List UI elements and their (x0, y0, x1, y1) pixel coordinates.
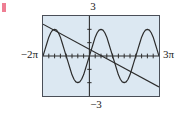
y-max-label: 3 (90, 1, 96, 12)
y-min-label: −3 (90, 99, 102, 110)
x-min-label: −2π (21, 49, 38, 60)
plot-canvas (43, 16, 159, 96)
graph-figure: 3 −3 −2π 3π (0, 0, 186, 114)
plot-frame (42, 15, 160, 97)
x-max-label: 3π (163, 49, 174, 60)
margin-mark-icon (2, 3, 6, 12)
